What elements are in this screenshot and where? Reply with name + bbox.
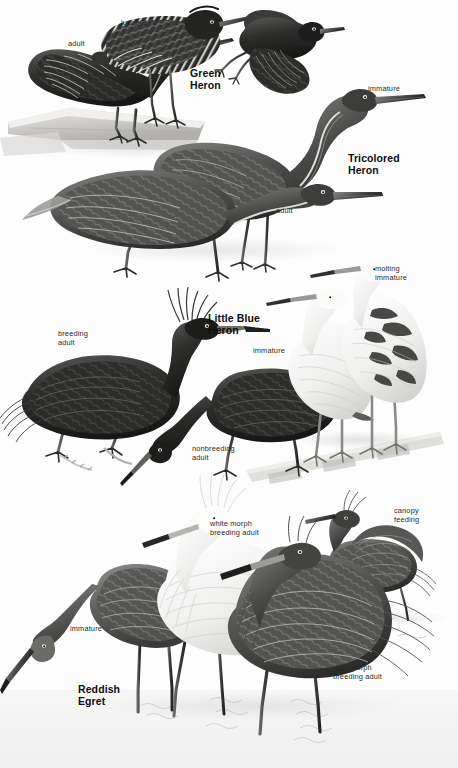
- field-guide-plate: juvenile adult adult Green Heron immatur…: [0, 0, 458, 768]
- bird-illustration-artwork: [0, 0, 458, 768]
